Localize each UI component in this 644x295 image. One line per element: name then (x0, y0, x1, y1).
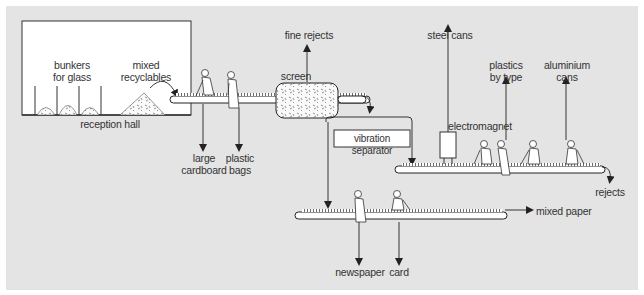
conveyor-belt-3 (295, 209, 530, 219)
label-mixed-paper: mixed paper (536, 205, 596, 217)
worker-figure (196, 70, 214, 97)
label-steel-cans: steel cans (425, 29, 475, 41)
screen-drum (276, 83, 338, 118)
label-reception-hall: reception hall (70, 118, 150, 130)
label-electromagnet: electromagnet (448, 120, 514, 132)
label-aluminium-cans: aluminium cans (541, 59, 593, 83)
label-vibration-separator: vibration separator (334, 133, 410, 157)
label-newspaper: newspaper (334, 266, 386, 278)
label-rejects: rejects (592, 186, 628, 198)
label-screen: screen (276, 70, 316, 82)
recycling-flow-diagram (0, 0, 644, 295)
worker-figure (392, 191, 410, 211)
electromagnet (440, 28, 456, 164)
worker-figure (355, 191, 367, 223)
label-mixed-recyclables: mixed recyclables (115, 59, 177, 83)
label-card: card (386, 266, 412, 278)
label-plastic-bags: plastic bags (222, 152, 258, 176)
label-fine-rejects: fine rejects (283, 29, 335, 41)
worker-figure (228, 72, 240, 109)
worker-figure (521, 141, 540, 165)
worker-figure (566, 141, 584, 165)
label-bunkers: bunkers for glass (46, 59, 98, 83)
label-plastics-by-type: plastics by type (486, 59, 526, 83)
worker-figure (474, 141, 492, 165)
